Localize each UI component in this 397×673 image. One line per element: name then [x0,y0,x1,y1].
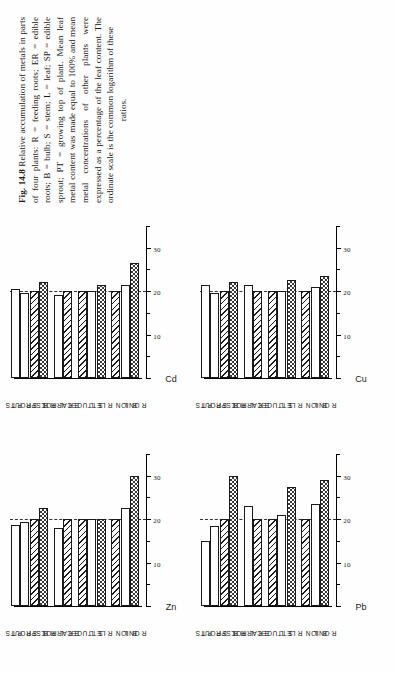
axis-tick [146,248,151,249]
part-labels: R S L [85,402,113,409]
bar [220,519,229,606]
category-group-onion: ONIONR B L [301,609,330,637]
part-labels: ER L [51,630,79,637]
bar [268,291,277,378]
figure-page: ONIONR B LLETTUCER S LCARROTER LB.SPROUT… [0,0,397,673]
book-page-sheet: ONIONR B LLETTUCER S LCARROTER LB.SPROUT… [0,0,397,673]
bar [244,285,253,378]
rotated-page-wrapper: ONIONR B LLETTUCER S LCARROTER LB.SPROUT… [0,0,397,673]
axis-title-cu: Cu [356,347,366,411]
category-labels: ONIONR B LLETTUCER S LCARROTER LB.SPROUT… [204,609,332,637]
part-labels: R S L [275,630,303,637]
category-group-lettuce: LETTUCER S L [267,609,296,637]
plot-area-pb [204,455,332,607]
axis-tick [336,476,341,477]
part-labels: R L SP PT [217,630,245,637]
chart-cd: ONIONR B LLETTUCER S LCARROTER LB.SPROUT… [14,209,186,409]
bar [320,480,329,606]
axis-tick [336,584,340,585]
category-group-lettuce: LETTUCER S L [77,609,106,637]
bar [39,508,48,606]
plot-area-cu [204,227,332,379]
part-labels: ER L [241,402,269,409]
bar [253,291,262,378]
category-group-lettuce: LETTUCER S L [267,381,296,409]
bar [30,519,39,606]
category-labels: ONIONR B LLETTUCER S LCARROTER LB.SPROUT… [14,609,142,637]
bar [201,541,210,606]
bar [97,285,106,378]
bar [253,519,262,606]
axis-tick-label: 20 [343,289,350,297]
bar [320,276,329,378]
axis-title-text: Pb [355,602,366,612]
plot-area-cd [14,227,142,379]
category-labels: ONIONR B LLETTUCER S LCARROTER LB.SPROUT… [14,381,142,409]
ordinate-axis-pb: 302010 [336,455,358,607]
axis-tick-label: 10 [153,333,160,341]
bar [121,508,130,606]
bar [244,506,253,606]
bar [268,519,277,606]
category-group-b-sprouts: B.SPROUTSR L SP PT [10,381,48,409]
axis-tick [336,541,340,542]
axis-tick-label: 30 [343,246,350,254]
caption-tail: ratios. [117,17,130,203]
axis-tick [336,497,340,498]
figure-caption: Fig. 14.8 Relative accumulation of metal… [16,17,129,203]
chart-cu: ONIONR B LLETTUCER S LCARROTER LB.SPROUT… [204,209,376,409]
bar [111,519,120,606]
category-group-carrot: CARROTER L [243,609,262,637]
part-labels: R L SP PT [27,630,55,637]
caption-text: Relative accumulation of metals in parts… [17,17,115,203]
chart-pb: ONIONR B LLETTUCER S LCARROTER LB.SPROUT… [204,437,376,637]
bar [78,519,87,606]
bar [87,519,96,606]
axis-tick [146,541,150,542]
figure-number: Fig. 14.8 [17,169,27,203]
axis-tick [146,313,150,314]
part-labels: R L SP PT [27,402,55,409]
bar [111,291,120,378]
bar [39,282,48,378]
part-labels: R S L [275,402,303,409]
axis-tick [146,226,150,227]
axis-title-text: Cu [355,374,367,384]
axis-tick [146,476,151,477]
bar [277,291,286,378]
bar [63,291,72,378]
axis-title-pb: Pb [356,575,366,639]
axis-tick [336,335,341,336]
ordinate-axis-zn: 302010 [146,455,168,607]
bar [301,519,310,606]
category-group-onion: ONIONR B L [111,609,140,637]
bar [54,296,63,379]
part-labels: R L SP PT [217,402,245,409]
category-group-b-sprouts: B.SPROUTSR L SP PT [200,609,238,637]
bar [301,291,310,378]
category-labels: ONIONR B LLETTUCER S LCARROTER LB.SPROUT… [204,381,332,409]
axis-title-text: Zn [166,602,177,612]
axis-title-zn: Zn [166,575,176,639]
bar [20,522,29,606]
bar [287,487,296,606]
part-labels: R B L [118,402,146,409]
category-group-lettuce: LETTUCER S L [77,381,106,409]
category-group-carrot: CARROTER L [53,381,72,409]
bar [20,293,29,378]
axis-tick [336,606,341,607]
bar [130,263,139,378]
axis-tick [146,519,151,520]
axis-tick [146,584,150,585]
axis-tick [146,378,151,379]
axis-tick-label: 10 [153,561,160,569]
bar [87,291,96,378]
plot-area-zn [14,455,142,607]
ordinate-axis-cu: 302010 [336,227,358,379]
baseline [14,606,142,607]
axis-tick [336,291,341,292]
bar [229,476,238,606]
bar [54,528,63,606]
axis-tick [336,313,340,314]
axis-tick [336,563,341,564]
